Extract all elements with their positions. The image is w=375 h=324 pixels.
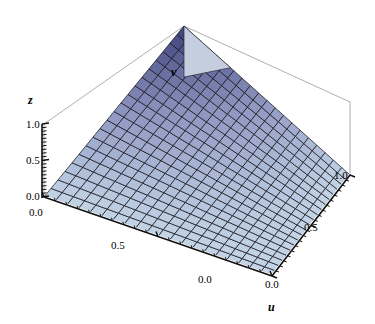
surface-mesh <box>44 26 350 276</box>
surface-plot-figure: 1.0 0.5 0.0 0.0 0.5 0.0 0.0 0.5 1.0 z v … <box>0 0 375 324</box>
u-tick-label-0: 0.0 <box>265 278 279 290</box>
v-tick-label-0: 0.0 <box>29 206 43 218</box>
z-tick-label-1: 1.0 <box>26 118 40 130</box>
u-axis-name: u <box>268 300 275 314</box>
z-tick-label-3: 0.0 <box>26 190 40 202</box>
v-tick-label-1: 0.5 <box>111 239 125 251</box>
z-axis-name: z <box>27 93 33 107</box>
u-tick-label-2: 1.0 <box>334 169 348 181</box>
v-tick-label-2: 0.0 <box>198 273 212 285</box>
z-tick-label-2: 0.5 <box>26 154 40 166</box>
v-axis-name: v <box>171 65 177 79</box>
plot-canvas: 1.0 0.5 0.0 0.0 0.5 0.0 0.0 0.5 1.0 z v … <box>0 0 375 324</box>
u-tick-label-1: 0.5 <box>304 221 318 233</box>
